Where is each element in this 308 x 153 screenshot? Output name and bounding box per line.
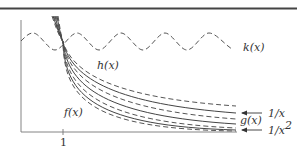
k-label: k(x) xyxy=(243,41,264,54)
k-curve xyxy=(21,33,232,50)
arrowhead-icon xyxy=(241,128,247,133)
f-label: f(x) xyxy=(63,106,83,119)
function-diagram: 1 k(x) h(x) f(x) g(x) xyxy=(0,0,308,153)
inv-x-sq-label: 1/x2 xyxy=(268,119,292,137)
inv-x-label: 1/x xyxy=(268,107,286,120)
x-tick-label: 1 xyxy=(60,136,67,149)
h-upper-dashed xyxy=(58,16,236,106)
h-label: h(x) xyxy=(97,59,119,72)
g-label: g(x) xyxy=(240,114,262,127)
